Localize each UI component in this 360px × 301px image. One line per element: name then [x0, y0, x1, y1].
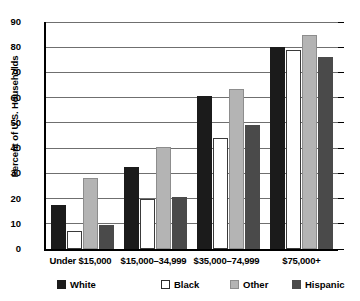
- bar-groups: [46, 22, 338, 249]
- y-axis-tick-label: 80: [0, 42, 21, 51]
- legend-swatch-icon: [230, 280, 239, 289]
- x-axis-tick-label: $75,000+: [265, 255, 338, 266]
- bar-white: [124, 167, 140, 249]
- y-axis-tick-label: 20: [0, 194, 21, 203]
- y-axis-tick: [338, 72, 344, 73]
- y-axis-tick-label: 10: [0, 219, 21, 228]
- y-axis-tick: [338, 148, 344, 149]
- chart-legend: WhiteBlackOtherHispanic: [0, 279, 360, 292]
- source-note: [0, 294, 360, 301]
- bar-black: [213, 138, 229, 249]
- y-axis-tick: [338, 22, 344, 23]
- legend-label: Other: [243, 279, 268, 290]
- bar-white: [197, 96, 213, 249]
- legend-swatch-icon: [292, 280, 301, 289]
- bar-group: [119, 22, 192, 249]
- bar-hispanic: [318, 57, 334, 249]
- plot-area: [44, 22, 338, 251]
- x-axis-tick-label: $15,000–34,999: [117, 255, 190, 266]
- legend-label: Black: [174, 279, 199, 290]
- y-axis-tick: [338, 198, 344, 199]
- y-axis-tick-label: 30: [0, 168, 21, 177]
- y-axis-tick: [338, 173, 344, 174]
- y-axis-tick-label: 50: [0, 118, 21, 127]
- bar-group: [46, 22, 119, 249]
- bar-black: [67, 231, 83, 249]
- bar-hispanic: [172, 197, 188, 249]
- x-axis-tick-label: Under $15,000: [44, 255, 117, 266]
- legend-label: White: [70, 279, 96, 290]
- bar-group: [192, 22, 265, 249]
- bar-group: [265, 22, 338, 249]
- y-axis-tick: [338, 97, 344, 98]
- y-axis-tick: [338, 47, 344, 48]
- y-axis-tick: [338, 122, 344, 123]
- legend-swatch-icon: [57, 280, 66, 289]
- legend-swatch-icon: [161, 280, 170, 289]
- y-axis-tick-label: 90: [0, 17, 21, 26]
- y-axis-tick: [338, 249, 344, 250]
- chart-figure: Percent of U.S. Households 9080706050403…: [0, 0, 360, 301]
- bar-black: [140, 199, 156, 249]
- y-axis-tick-label: 70: [0, 67, 21, 76]
- y-axis-tick: [338, 223, 344, 224]
- y-axis-tick-label: 40: [0, 143, 21, 152]
- bar-other: [83, 178, 99, 249]
- legend-item-black[interactable]: Black: [161, 279, 199, 290]
- y-axis-tick-label: 0: [0, 244, 21, 253]
- bar-white: [270, 47, 286, 249]
- legend-label: Hispanic: [305, 279, 345, 290]
- x-axis-tick-label: $35,000–74,999: [190, 255, 263, 266]
- legend-item-other[interactable]: Other: [230, 279, 268, 290]
- legend-item-hispanic[interactable]: Hispanic: [292, 279, 345, 290]
- bar-other: [156, 147, 172, 249]
- bar-black: [286, 50, 302, 249]
- bar-hispanic: [245, 125, 261, 249]
- bar-other: [229, 89, 245, 249]
- y-axis-tick-label: 60: [0, 93, 21, 102]
- legend-item-white[interactable]: White: [57, 279, 96, 290]
- bar-white: [51, 205, 67, 249]
- bar-other: [302, 35, 318, 249]
- x-axis-tick-labels: Under $15,000$15,000–34,999$35,000–74,99…: [44, 255, 336, 269]
- bar-hispanic: [99, 225, 115, 249]
